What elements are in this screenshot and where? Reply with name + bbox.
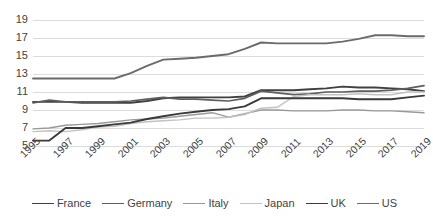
legend-label: Japan	[265, 197, 295, 209]
legend-item-germany[interactable]: Germany	[102, 197, 172, 209]
y-tick-label: 17	[2, 32, 28, 43]
legend-swatch-us-icon	[357, 203, 379, 204]
legend-item-italy[interactable]: Italy	[183, 197, 228, 209]
legend-label: Italy	[208, 197, 228, 209]
legend-label: US	[382, 197, 397, 209]
legend-swatch-germany-icon	[102, 203, 124, 204]
y-tick-label: 13	[2, 68, 28, 79]
legend-label: Germany	[127, 197, 172, 209]
y-tick-label: 15	[2, 50, 28, 61]
legend-label: France	[57, 197, 91, 209]
legend-label: UK	[331, 197, 346, 209]
legend-swatch-italy-icon	[183, 203, 205, 204]
legend-swatch-uk-icon	[306, 203, 328, 204]
legend-item-france[interactable]: France	[32, 197, 91, 209]
legend-item-uk[interactable]: UK	[306, 197, 346, 209]
legend-swatch-japan-icon	[240, 203, 262, 204]
legend-swatch-france-icon	[32, 203, 54, 204]
chart-legend: FranceGermanyItalyJapanUKUS	[0, 193, 429, 213]
y-tick-label: 9	[2, 104, 28, 115]
legend-item-japan[interactable]: Japan	[240, 197, 295, 209]
y-tick-label: 19	[2, 14, 28, 25]
series-line-us	[33, 35, 424, 78]
legend-item-us[interactable]: US	[357, 197, 397, 209]
y-tick-label: 11	[2, 86, 28, 97]
y-tick-label: 7	[2, 122, 28, 133]
